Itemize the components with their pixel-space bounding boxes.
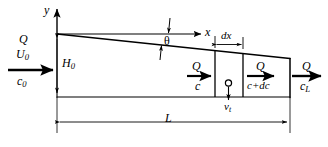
y-axis-label: y [44,4,49,16]
settling-particle [225,80,231,86]
depth-label: H0 [62,57,75,71]
depth-subscript: 0 [71,61,75,71]
inlet-flow-label: Q [19,33,28,45]
outlet-concentration-subscript: L [305,84,310,94]
inlet-concentration-subscript: 0 [22,79,26,89]
theta-label: θ [164,35,170,47]
inlet-velocity-symbol: U [16,47,25,61]
sloping-top-surface [57,34,290,59]
inlet-concentration-label: c0 [17,75,27,89]
x-axis-label: x [205,26,210,38]
theta-tick-upper [169,18,171,33]
sedimentation-basin-diagram: y x θ Q U0 c0 H0 dx Q c Q c+dc Q cL vt L [0,0,328,147]
outlet-flow-label: Q [302,60,311,72]
outlet-concentration-label: cL [300,80,310,94]
settling-velocity-subscript: t [229,105,231,114]
inlet-velocity-label: U0 [16,48,29,62]
diagram-canvas [0,0,328,147]
depth-symbol: H [62,56,71,70]
settling-velocity-label: vt [224,101,231,114]
cv-outflow-concentration-label: c+dc [247,80,270,91]
theta-tick-lower [160,46,162,61]
cv-outflow-flow-label: Q [256,60,265,72]
length-label: L [165,112,172,124]
dx-label: dx [221,30,231,41]
cv-inflow-flow-label: Q [192,60,201,72]
cv-inflow-concentration-label: c [195,80,200,92]
inlet-velocity-subscript: 0 [25,52,29,62]
